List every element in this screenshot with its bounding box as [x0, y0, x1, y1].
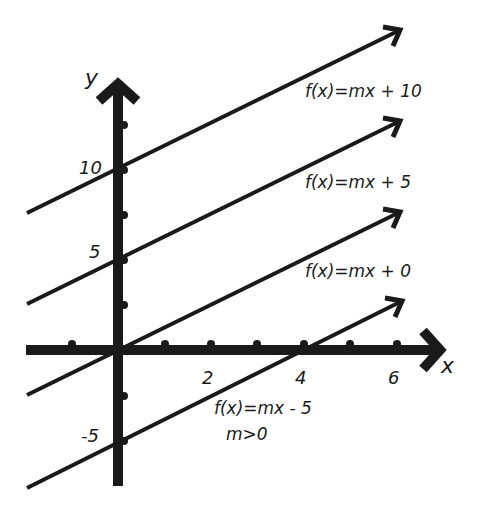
- function-label: f(x)=mx + 5: [305, 172, 411, 192]
- linear-functions-diagram: y x 2 4 6 10 5 -5 f(x)=mx + 10 f(x)=mx +…: [0, 0, 481, 508]
- y-axis-label: y: [84, 65, 99, 90]
- function-label: f(x)=mx + 10: [305, 81, 422, 101]
- y-tick-label: 10: [79, 157, 102, 178]
- x-tick-label: 4: [295, 367, 306, 388]
- x-axis-label: x: [440, 353, 455, 378]
- slope-condition-label: m>0: [226, 424, 268, 444]
- y-tick-label: -5: [81, 425, 99, 446]
- function-label: f(x)=mx + 0: [305, 261, 411, 281]
- function-label: f(x)=mx - 5: [214, 398, 312, 418]
- y-tick-label: 5: [89, 241, 100, 262]
- line-intercept-minus-5: [27, 298, 402, 488]
- y-axis: [99, 84, 137, 486]
- line-intercept-0: [27, 209, 400, 395]
- x-tick-label: 6: [388, 367, 399, 388]
- x-tick-label: 2: [202, 367, 213, 388]
